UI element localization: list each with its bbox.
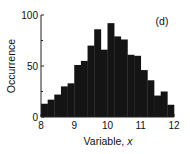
histogram-bar (88, 46, 95, 117)
histogram-bar (61, 86, 68, 117)
histogram-bar (154, 96, 161, 117)
y-tick-label: 100 (21, 10, 38, 21)
histogram-bars (41, 23, 174, 117)
x-tick-label: 9 (71, 120, 77, 131)
x-tick-label: 8 (38, 120, 44, 131)
x-axis-label-text: Variable, (84, 135, 128, 147)
histogram-bar (141, 70, 148, 117)
histogram-bar (167, 105, 174, 117)
histogram-bar (147, 80, 154, 117)
y-tick-label: 0 (32, 112, 38, 123)
histogram-bar (108, 23, 115, 117)
histogram-bar (127, 55, 134, 117)
histogram-chart: 89101112050100 Occurrence Variable, x (d… (0, 0, 190, 154)
histogram-bar (74, 65, 81, 117)
x-tick-label: 12 (168, 120, 180, 131)
y-tick-label: 50 (27, 61, 39, 72)
histogram-bar (81, 61, 88, 117)
histogram-bar (68, 83, 75, 117)
histogram-bar (134, 56, 141, 117)
x-axis-label-variable: x (126, 135, 133, 147)
histogram-bar (94, 29, 101, 117)
x-tick-label: 11 (136, 120, 147, 131)
x-axis-label: Variable, x (84, 135, 134, 147)
histogram-bar (48, 100, 55, 117)
histogram-bar (41, 104, 48, 117)
panel-label: (d) (156, 15, 169, 27)
histogram-bar (121, 39, 128, 117)
x-tick-label: 10 (102, 120, 114, 131)
histogram-bar (161, 92, 168, 118)
histogram-bar (114, 36, 121, 117)
histogram-bar (54, 95, 61, 117)
y-axis-label: Occurrence (5, 39, 17, 93)
histogram-bar (101, 50, 108, 117)
